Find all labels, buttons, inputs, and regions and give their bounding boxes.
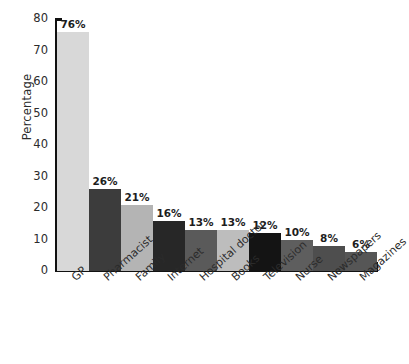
plot-area: 76%26%21%16%13%13%12%10%8%6% [57, 19, 377, 271]
y-tick-label: 10 [22, 232, 48, 246]
y-tick-label: 70 [22, 43, 48, 57]
y-tick-label: 80 [22, 11, 48, 25]
bar-value-label: 13% [220, 216, 245, 228]
y-tick-label: 40 [22, 137, 48, 151]
bar-value-label: 8% [320, 232, 338, 244]
y-tick-label: 60 [22, 74, 48, 88]
bar-value-label: 21% [124, 191, 149, 203]
y-tick-label: 50 [22, 106, 48, 120]
bar-value-label: 16% [156, 207, 181, 219]
bar-value-label: 76% [60, 18, 85, 30]
bar-value-label: 26% [92, 175, 117, 187]
y-tick-label: 30 [22, 169, 48, 183]
bar-value-label: 13% [188, 216, 213, 228]
bar-gp: 76% [57, 32, 89, 271]
bar-value-label: 10% [284, 226, 309, 238]
y-tick-label: 20 [22, 200, 48, 214]
y-tick-label: 0 [22, 263, 48, 277]
